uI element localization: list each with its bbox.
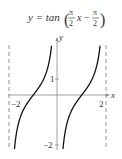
x-tick-label-neg2: −2 [11, 99, 21, 109]
x-axis-label: x [110, 90, 115, 100]
frac2-denominator: 2 [93, 19, 97, 28]
y-tick-label-1: 1 [50, 74, 55, 84]
frac1-numerator: π [69, 8, 73, 17]
y-axis-label: y [58, 32, 63, 42]
x-tick-label-2: 2 [99, 99, 104, 109]
right-paren: ) [100, 11, 105, 29]
equation-title: y = tan ( π 2 x − π 2 ) [27, 8, 105, 29]
equation-lhs: y = tan [27, 11, 60, 23]
frac1-denominator: 2 [69, 19, 73, 28]
equation-minus: − [84, 12, 90, 23]
tangent-graph: y = tan ( π 2 x − π 2 ) y x 1 −2 −2 2 [0, 0, 122, 159]
frac2-numerator: π [93, 8, 97, 17]
curve-branch-left [14, 46, 51, 149]
x-axis-arrow-icon [106, 94, 110, 97]
curve-branch-right [63, 46, 100, 149]
y-tick-label-neg2: −2 [43, 140, 53, 150]
equation-var: x [76, 12, 82, 23]
